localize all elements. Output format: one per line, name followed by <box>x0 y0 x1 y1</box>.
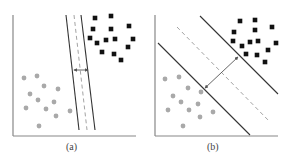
class-circle-point <box>187 108 192 113</box>
class-circle-point <box>199 90 204 95</box>
class-square-point <box>266 48 271 53</box>
class-square-point <box>95 41 100 46</box>
class-square-point <box>112 52 117 57</box>
class-square-point <box>274 41 279 46</box>
class-square-point <box>255 53 260 58</box>
class-square-point <box>104 38 109 43</box>
class-square-point <box>270 25 275 30</box>
margin-line <box>158 43 250 135</box>
class-circle-point <box>166 108 171 113</box>
margin-line <box>66 15 79 130</box>
margin-line <box>81 15 95 130</box>
class-circle-point <box>22 76 27 81</box>
class-square-point <box>113 37 118 42</box>
class-circle-point <box>44 107 49 112</box>
class-square-point <box>263 60 268 65</box>
class-circle-point <box>177 75 182 80</box>
class-circle-point <box>52 100 57 105</box>
class-circle-point <box>181 124 186 129</box>
class-square-point <box>256 39 261 44</box>
class-circle-point <box>42 84 47 89</box>
class-circle-point <box>24 106 29 111</box>
class-square-point <box>253 28 258 33</box>
class-square-point <box>109 14 114 19</box>
class-square-point <box>100 50 105 55</box>
class-circle-point <box>163 77 168 82</box>
decision-boundary-line <box>74 15 87 130</box>
class-circle-point <box>198 115 203 120</box>
caption-b: (b) <box>207 141 219 152</box>
class-circle-point <box>179 100 184 105</box>
class-square-point <box>244 52 249 57</box>
class-circle-point <box>37 124 42 129</box>
class-square-point <box>253 18 258 23</box>
class-square-point <box>232 30 237 35</box>
class-square-point <box>248 40 253 45</box>
class-square-point <box>109 27 114 32</box>
class-circle-point <box>28 92 33 97</box>
class-circle-point <box>35 74 40 79</box>
class-square-point <box>93 16 98 21</box>
class-circle-point <box>68 109 73 114</box>
panel-b-max-margin <box>155 15 278 136</box>
class-circle-point <box>196 102 201 107</box>
class-circle-point <box>56 87 61 92</box>
class-circle-point <box>54 114 59 119</box>
caption-a: (a) <box>66 141 77 152</box>
class-square-point <box>126 45 131 50</box>
class-circle-point <box>186 86 191 91</box>
class-square-point <box>91 27 96 32</box>
svm-margin-diagram <box>0 0 285 162</box>
class-circle-point <box>36 98 41 103</box>
panel-a-narrow-margin <box>13 14 136 136</box>
class-square-point <box>238 19 243 24</box>
class-circle-point <box>171 94 176 99</box>
class-square-point <box>240 44 245 49</box>
margin-width-arrow-icon <box>205 57 238 88</box>
class-square-point <box>231 39 236 44</box>
class-square-point <box>88 36 93 41</box>
class-square-point <box>127 24 132 29</box>
class-circle-point <box>211 110 216 115</box>
class-square-point <box>131 37 136 42</box>
class-square-point <box>119 58 124 63</box>
